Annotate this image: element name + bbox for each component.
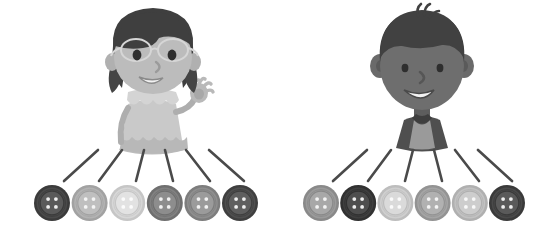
left-button-2-hole-2 [92,197,96,201]
left-button-5-hole-1 [197,197,201,201]
boy-eye-left [402,64,409,72]
right-button-5[interactable] [452,185,488,221]
left-button-3-hole-1 [121,197,125,201]
left-button-2-hole-1 [84,197,88,201]
girl-dress-scallop [120,137,188,154]
right-button-3-hole-2 [397,197,401,201]
left-button-6-hole-3 [234,205,238,209]
right-button-1-hole-2 [323,197,327,201]
girl-dress [119,89,188,155]
right-button-6[interactable] [489,185,525,221]
left-button-4-hole-2 [167,197,171,201]
right-button-4-hole-1 [427,197,431,201]
left-button-5-hole-3 [197,205,201,209]
left-button-4[interactable] [147,185,183,221]
right-button-2-hole-2 [360,197,364,201]
right-button-6-hole-3 [501,205,505,209]
left-button-1-hole-2 [54,197,58,201]
girl-eye-left [133,50,142,61]
left-button-4-hole-3 [159,205,163,209]
left-button-1-hole-1 [46,197,50,201]
right-button-5-hole-3 [464,205,468,209]
right-button-4-hole-4 [435,205,439,209]
right-button-2[interactable] [340,185,376,221]
right-button-2-hole-1 [352,197,356,201]
left-button-6-hole-1 [234,197,238,201]
left-button-2-hole-4 [92,205,96,209]
left-button-3[interactable] [109,185,145,221]
right-button-1-hole-4 [323,205,327,209]
girl-eye-right [168,50,177,61]
left-button-1-hole-3 [46,205,50,209]
left-button-3-hole-2 [129,197,133,201]
left-button-4-hole-4 [167,205,171,209]
left-button-6[interactable] [222,185,258,221]
left-button-2-hole-3 [84,205,88,209]
right-button-3[interactable] [377,185,413,221]
right-button-4-hole-3 [427,205,431,209]
left-button-6-hole-4 [242,205,246,209]
right-button-5-hole-2 [472,197,476,201]
right-button-5-hole-1 [464,197,468,201]
left-button-6-hole-2 [242,197,246,201]
left-button-3-hole-4 [129,205,133,209]
left-button-2[interactable] [72,185,108,221]
right-button-4-hole-2 [435,197,439,201]
left-button-1[interactable] [34,185,70,221]
left-button-5[interactable] [184,185,220,221]
right-button-6-hole-4 [509,205,513,209]
right-button-4[interactable] [415,185,451,221]
scene-illustration [0,0,538,244]
right-button-2-hole-4 [360,205,364,209]
right-button-6-hole-1 [501,197,505,201]
illustration-canvas: Two children each with a row of six butt… [0,0,538,244]
boy-eye-right [437,64,444,72]
left-button-5-hole-2 [204,197,208,201]
right-button-1-hole-1 [315,197,319,201]
left-button-3-hole-3 [121,205,125,209]
right-button-1[interactable] [303,185,339,221]
right-button-5-hole-4 [472,205,476,209]
right-button-1-hole-3 [315,205,319,209]
right-button-6-hole-2 [509,197,513,201]
right-button-2-hole-3 [352,205,356,209]
right-button-3-hole-1 [390,197,394,201]
right-button-3-hole-4 [397,205,401,209]
left-button-5-hole-4 [204,205,208,209]
left-button-4-hole-1 [159,197,163,201]
left-button-1-hole-4 [54,205,58,209]
right-button-3-hole-3 [390,205,394,209]
